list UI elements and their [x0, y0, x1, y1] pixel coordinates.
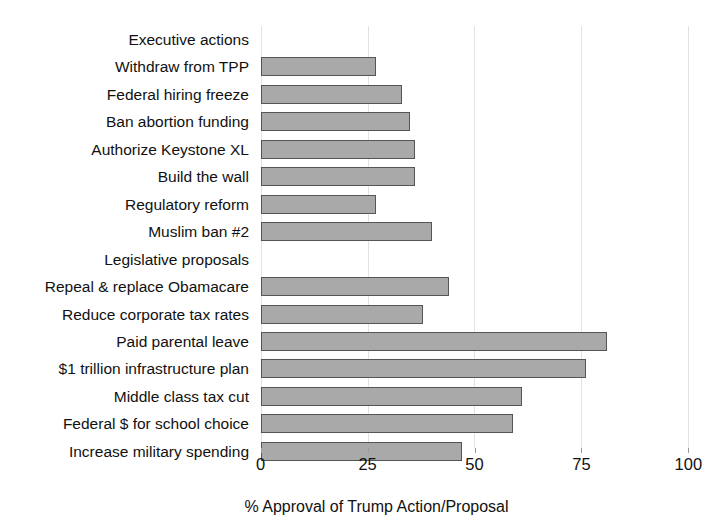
y-axis-group-header: Legislative proposals: [0, 246, 255, 273]
bar-row: [261, 218, 689, 245]
x-axis-title-text: % Approval of Trump Action/Proposal: [198, 498, 508, 516]
bar-regulatory-reform: [261, 195, 376, 214]
y-axis-tick-label: Federal $ for school choice: [0, 410, 255, 437]
y-axis-tick-label: Paid parental leave: [0, 328, 255, 355]
y-axis-tick-label: Build the wall: [0, 163, 255, 190]
bar-row: [261, 163, 689, 190]
x-tick-mark-100: [688, 448, 689, 453]
x-tick-mark-0: [261, 448, 262, 453]
bar-row: [261, 191, 689, 218]
bar-ban-abortion-funding: [261, 112, 411, 131]
bar-row: [261, 53, 689, 80]
x-tick-label-0: 0: [256, 455, 265, 474]
x-tick-label-75: 75: [572, 455, 590, 474]
bar-paid-parental-leave: [261, 332, 607, 351]
y-axis-tick-label: Federal hiring freeze: [0, 81, 255, 108]
bar-1-trillion-infrastructure-plan: [261, 359, 586, 378]
bar-federal-for-school-choice: [261, 414, 513, 433]
x-tick-label-100: 100: [675, 455, 703, 474]
x-tick-label-50: 50: [465, 455, 483, 474]
bar-repeal-replace-obamacare: [261, 277, 449, 296]
bar-authorize-keystone-xl: [261, 140, 415, 159]
x-tick-mark-50: [475, 448, 476, 453]
y-axis-tick-label: Authorize Keystone XL: [0, 136, 255, 163]
y-axis-tick-label: Ban abortion funding: [0, 108, 255, 135]
y-axis-tick-labels: Executive actionsWithdraw from TPPFedera…: [0, 26, 255, 448]
bar-middle-class-tax-cut: [261, 387, 522, 406]
x-tick-mark-75: [581, 448, 582, 453]
bar-row: [261, 136, 689, 163]
bar-build-the-wall: [261, 167, 415, 186]
gridline-100: [688, 26, 689, 448]
bar-federal-hiring-freeze: [261, 85, 402, 104]
y-axis-tick-label: Reduce corporate tax rates: [0, 301, 255, 328]
bar-withdraw-from-tpp: [261, 57, 376, 76]
x-axis-title: % Approval of Trump Action/Proposal: [0, 498, 707, 516]
y-axis-group-header: Executive actions: [0, 26, 255, 53]
bar-row: [261, 108, 689, 135]
bar-muslim-ban-2: [261, 222, 432, 241]
bar-row: [261, 246, 689, 273]
y-axis-tick-label: Regulatory reform: [0, 191, 255, 218]
y-axis-tick-label: $1 trillion infrastructure plan: [0, 355, 255, 382]
y-axis-tick-label: Repeal & replace Obamacare: [0, 273, 255, 300]
x-tick-label-25: 25: [358, 455, 376, 474]
plot-area: [261, 26, 689, 448]
bar-row: [261, 81, 689, 108]
y-axis-tick-label: Muslim ban #2: [0, 218, 255, 245]
bar-row: [261, 26, 689, 53]
y-axis-tick-label: Withdraw from TPP: [0, 53, 255, 80]
bar-row: [261, 301, 689, 328]
y-axis-tick-label: Increase military spending: [0, 438, 255, 465]
y-axis-tick-label: Middle class tax cut: [0, 383, 255, 410]
bar-row: [261, 328, 689, 355]
bar-row: [261, 273, 689, 300]
bar-chart-figure: Executive actionsWithdraw from TPPFedera…: [0, 0, 707, 529]
bar-reduce-corporate-tax-rates: [261, 305, 423, 324]
x-tick-mark-25: [368, 448, 369, 453]
bar-row: [261, 410, 689, 437]
bar-row: [261, 383, 689, 410]
bar-row: [261, 355, 689, 382]
